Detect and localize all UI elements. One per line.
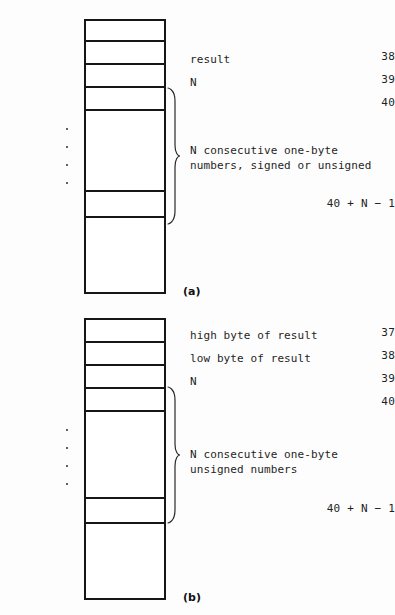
- annotation-result: result: [190, 52, 230, 67]
- memory-cell-40: [86, 389, 164, 412]
- memory-cell-range: [86, 412, 164, 499]
- memory-cell-39: [86, 65, 164, 88]
- address-label-39: 39: [323, 373, 395, 385]
- memory-cell: [86, 524, 164, 598]
- memory-cell-40-plus-n-1: [86, 499, 164, 524]
- address-label-37: 37: [323, 327, 395, 339]
- ellipsis-dot-icon: [66, 182, 68, 184]
- annotation-range-line1: N consecutive one-byte: [190, 447, 338, 462]
- memory-cell: [86, 218, 164, 286]
- memory-cell-39: [86, 366, 164, 389]
- annotation-n: N: [190, 75, 197, 90]
- ellipsis-dot-icon: [66, 447, 68, 449]
- address-label-40-plus-n-minus-1: 40 + N − 1: [323, 503, 395, 515]
- ellipsis-dot-icon: [66, 483, 68, 485]
- address-label-40-plus-n-minus-1: 40 + N − 1: [323, 198, 395, 210]
- address-label-39: 39: [323, 74, 395, 86]
- memory-cell-38: [86, 42, 164, 65]
- memory-cell-40: [86, 88, 164, 111]
- range-brace-a: [166, 87, 182, 225]
- memory-cell-range: [86, 111, 164, 192]
- ellipsis-dot-icon: [66, 128, 68, 130]
- annotation-n: N: [190, 374, 197, 389]
- memory-column-a: [84, 19, 166, 294]
- annotation-range-line1: N consecutive one-byte: [190, 143, 338, 158]
- memory-cell-40-plus-n-1: [86, 192, 164, 218]
- address-label-38: 38: [323, 350, 395, 362]
- memory-cell: [86, 21, 164, 42]
- ellipsis-dot-icon: [66, 146, 68, 148]
- address-label-40: 40: [323, 97, 395, 109]
- annotation-high-byte: high byte of result: [190, 328, 318, 343]
- address-label-40: 40: [323, 396, 395, 408]
- memory-column-b: [84, 318, 166, 600]
- range-brace-b: [166, 386, 182, 524]
- panel-caption-a: (a): [183, 286, 200, 298]
- annotation-low-byte: low byte of result: [190, 351, 311, 366]
- panel-caption-b: (b): [183, 592, 201, 604]
- ellipsis-dot-icon: [66, 465, 68, 467]
- annotation-range-line2: numbers, signed or unsigned: [190, 158, 372, 173]
- memory-cell-37: [86, 320, 164, 343]
- ellipsis-dot-icon: [66, 429, 68, 431]
- address-label-38: 38: [323, 51, 395, 63]
- annotation-range-line2: unsigned numbers: [190, 462, 298, 477]
- memory-cell-38: [86, 343, 164, 366]
- ellipsis-dot-icon: [66, 164, 68, 166]
